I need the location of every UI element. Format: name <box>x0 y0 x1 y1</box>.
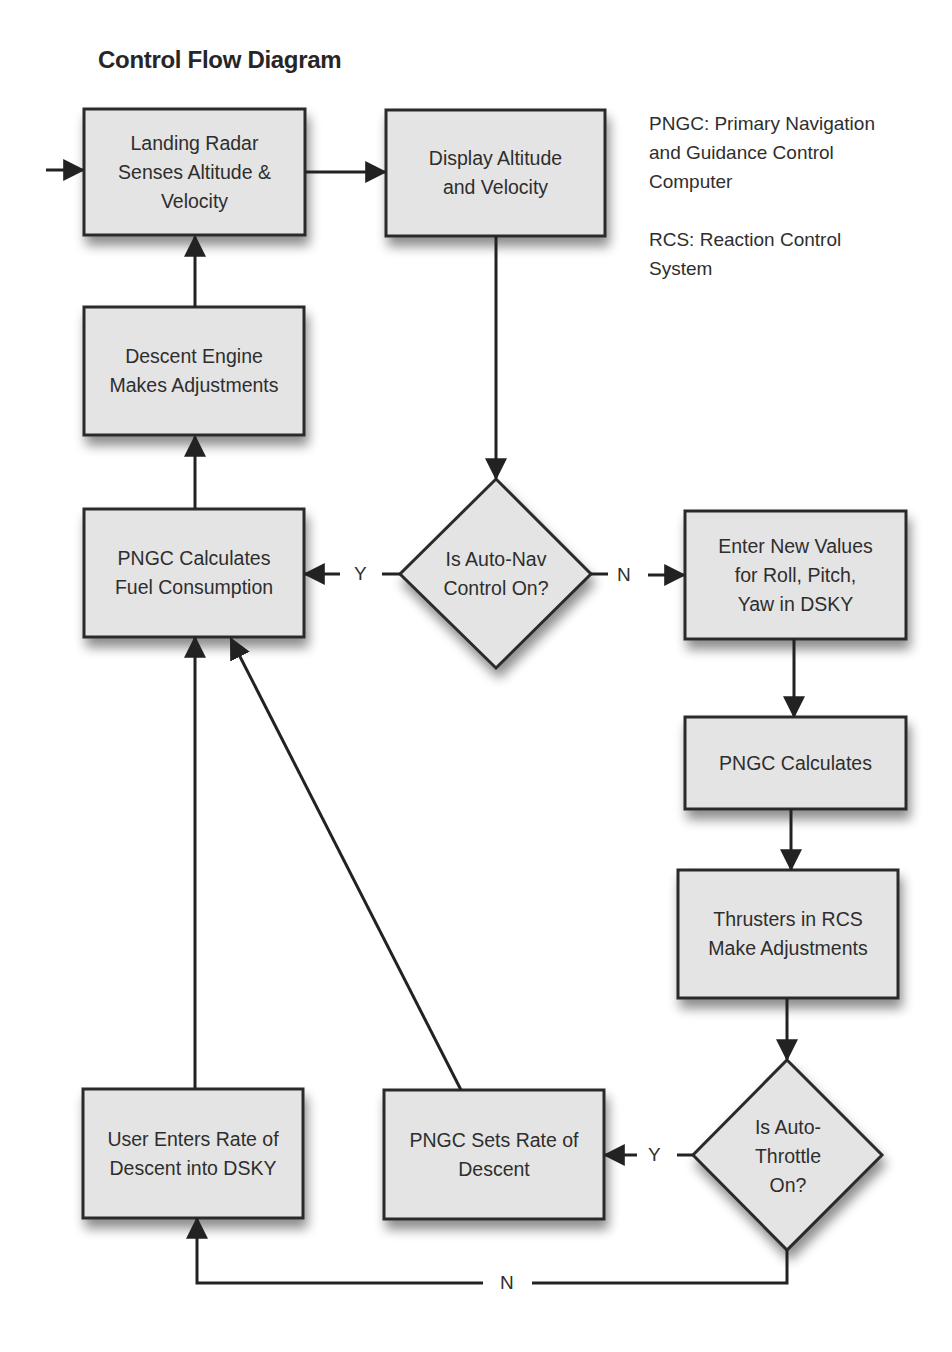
edge-pngc-sets-to-fuel <box>231 639 461 1090</box>
label-pngc-fuel: PNGC Calculates Fuel Consumption <box>84 509 304 637</box>
legend-rcs: RCS: Reaction Control System <box>649 225 841 283</box>
label-auto-throttle: Is Auto- Throttle On? <box>717 1108 859 1204</box>
edge-auto-throttle-no-left <box>197 1219 483 1283</box>
legend-pngc: PNGC: Primary Navigation and Guidance Co… <box>649 109 875 196</box>
edge-label-auto-throttle-no: N <box>500 1273 514 1293</box>
edge-label-auto-nav-no: N <box>617 565 631 585</box>
edge-label-auto-nav-yes: Y <box>354 564 367 584</box>
label-display-altitude: Display Altitude and Velocity <box>386 110 605 236</box>
label-user-enters-rate: User Enters Rate of Descent into DSKY <box>83 1089 303 1218</box>
label-thrusters: Thrusters in RCS Make Adjustments <box>678 870 898 998</box>
edge-auto-throttle-no-right <box>532 1250 787 1283</box>
label-descent-engine: Descent Engine Makes Adjustments <box>84 307 304 435</box>
label-enter-values: Enter New Values for Roll, Pitch, Yaw in… <box>685 511 906 639</box>
edge-label-auto-throttle-yes: Y <box>648 1145 661 1165</box>
label-auto-nav: Is Auto-Nav Control On? <box>420 530 572 618</box>
label-pngc-sets-rate: PNGC Sets Rate of Descent <box>384 1090 604 1219</box>
label-landing-radar: Landing Radar Senses Altitude & Velocity <box>84 109 305 235</box>
label-pngc-calculates: PNGC Calculates <box>685 717 906 809</box>
